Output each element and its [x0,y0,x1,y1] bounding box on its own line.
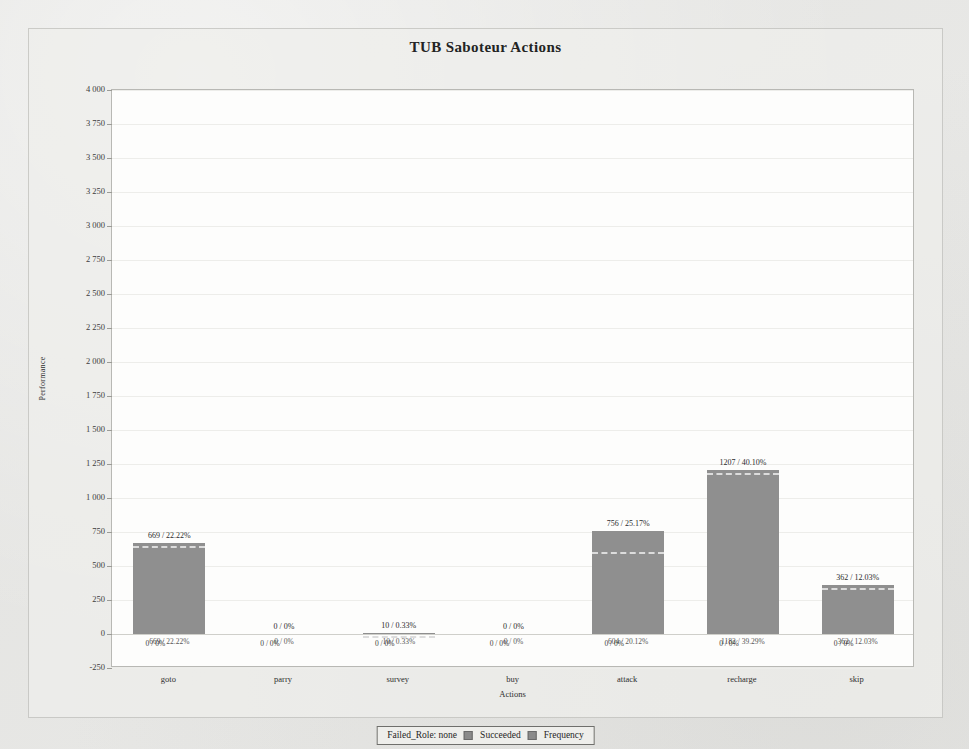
y-axis-tick-mark [107,600,112,601]
y-axis-title-label: Performance [38,356,47,400]
legend-entry-label: Frequency [544,730,584,740]
gridline [112,430,913,431]
y-axis-tick-mark [107,464,112,465]
y-axis-tick-label: 250 [92,594,105,604]
legend-swatch [464,731,473,740]
bar [822,585,894,634]
succeeded-level-line [822,588,894,590]
legend-swatch [528,731,537,740]
y-axis-tick-mark [107,124,112,125]
gridline [112,294,913,295]
y-axis-tick-mark [107,532,112,533]
bar-value-label: 756 / 25.17% [607,519,650,528]
x-axis-tick-label: attack [617,674,637,684]
bar [133,543,205,634]
x-axis-tick-label: parry [274,674,292,684]
bar-baseline-label-failed: 0 / 0% [260,639,280,648]
y-axis-tick-label: 2 000 [86,356,105,366]
y-axis-tick-label: 4 000 [86,84,105,94]
y-axis-tick-mark [107,260,112,261]
gridline [112,464,913,465]
y-axis-tick-label: 1 250 [86,458,105,468]
y-axis-tick-mark [107,226,112,227]
y-axis-tick-label: 3 000 [86,220,105,230]
x-axis-title: Actions [111,689,914,699]
bar-baseline-label-failed: 0 / 0% [490,639,510,648]
bar-baseline-label-failed: 0 / 0% [375,639,395,648]
gridline [112,260,913,261]
y-axis-tick-label: 2 250 [86,322,105,332]
gridline [112,498,913,499]
y-axis-tick-mark [107,158,112,159]
y-axis-tick-mark [107,294,112,295]
gridline [112,124,913,125]
y-axis-tick-mark [107,192,112,193]
bar-baseline-label-failed: 0 / 0% [719,639,739,648]
succeeded-level-line [592,552,664,554]
gridline [112,192,913,193]
gridline [112,668,913,669]
y-axis-tick-label: 3 500 [86,152,105,162]
gridline [112,158,913,159]
y-axis-tick-label: 500 [92,560,105,570]
x-axis-tick-label: buy [506,674,519,684]
chart-panel: TUB Saboteur Actions Performance 4 0003 … [28,28,943,718]
bar-baseline-label-failed: 0 / 0% [146,639,166,648]
y-axis-tick-label: 1 000 [86,492,105,502]
y-axis-tick-mark [107,362,112,363]
y-axis-tick-label: -250 [89,662,105,672]
y-axis-tick-mark [107,566,112,567]
bar [707,470,779,634]
y-axis-tick-label: 1 750 [86,390,105,400]
gridline [112,362,913,363]
succeeded-level-line [707,473,779,475]
y-axis-tick-label: 3 250 [86,186,105,196]
gridline [112,328,913,329]
x-axis-tick-label: recharge [727,674,756,684]
x-axis-tick-label: goto [161,674,176,684]
gridline [112,600,913,601]
bar-value-label: 0 / 0% [503,622,524,631]
bar-value-label: 1207 / 40.10% [719,458,766,467]
chart-title: TUB Saboteur Actions [29,39,942,56]
y-axis-tick-mark [107,498,112,499]
bar [592,531,664,634]
gridline [112,634,913,635]
bar-value-label: 362 / 12.03% [836,573,879,582]
y-axis-tick-mark [107,430,112,431]
y-axis-tick-mark [107,396,112,397]
chart-legend: Failed_Role: noneSucceededFrequency [376,726,595,745]
gridline [112,566,913,567]
bar-value-label: 669 / 22.22% [148,531,191,540]
y-axis-tick-labels: 4 0003 7503 5003 2503 0002 7502 5002 250… [57,89,105,667]
bar [363,633,435,634]
gridline [112,532,913,533]
gridline [112,226,913,227]
y-axis-tick-mark [107,90,112,91]
chart-screenshot: TUB Saboteur Actions Performance 4 0003 … [0,0,969,749]
x-axis-tick-label: survey [386,674,409,684]
y-axis-tick-label: 750 [92,526,105,536]
gridline [112,396,913,397]
x-axis-tick-label: skip [850,674,864,684]
y-axis-tick-label: 3 750 [86,118,105,128]
legend-entry-label: Failed_Role: none [387,730,457,740]
succeeded-level-line [133,546,205,548]
bar-baseline-label-failed: 0 / 0% [604,639,624,648]
bar-value-label: 10 / 0.33% [381,621,416,630]
y-axis-tick-mark [107,668,112,669]
bar-baseline-label-failed: 0 / 0% [834,639,854,648]
plot-area: 669 / 22.22%669 / 22.22%0 / 0%0 / 0%0 / … [111,89,914,667]
y-axis-tick-mark [107,634,112,635]
y-axis-tick-label: 1 500 [86,424,105,434]
y-axis-title: Performance [35,89,49,667]
y-axis-tick-label: 0 [101,628,105,638]
gridline [112,90,913,91]
y-axis-tick-label: 2 500 [86,288,105,298]
legend-entry-label: Succeeded [480,730,521,740]
y-axis-tick-mark [107,328,112,329]
bar-value-label: 0 / 0% [274,622,295,631]
y-axis-tick-label: 2 750 [86,254,105,264]
